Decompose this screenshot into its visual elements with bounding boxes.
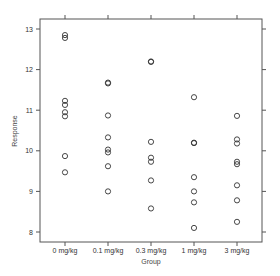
plot-frame: [40, 19, 262, 242]
data-point: [191, 95, 196, 100]
y-tick-label: 12: [25, 66, 33, 73]
data-point: [234, 183, 239, 188]
y-tick-label: 13: [25, 26, 33, 33]
x-tick-label: 0.3 mg/kg: [136, 247, 167, 255]
x-axis-title: Group: [141, 258, 161, 266]
data-points: [62, 32, 239, 230]
data-point: [191, 189, 196, 194]
data-point: [105, 135, 110, 140]
x-tick-label: 0 mg/kg: [53, 247, 78, 255]
data-point: [148, 139, 153, 144]
y-axis: 8910111213: [25, 26, 40, 236]
scatter-chart: 8910111213 0 mg/kg0.1 mg/kg0.3 mg/kg1 mg…: [0, 0, 280, 276]
data-point: [148, 178, 153, 183]
data-point: [234, 113, 239, 118]
data-point: [191, 225, 196, 230]
data-point: [191, 175, 196, 180]
data-point: [234, 219, 239, 224]
data-point: [62, 153, 67, 158]
x-axis: 0 mg/kg0.1 mg/kg0.3 mg/kg1 mg/kg3 mg/kg: [53, 242, 250, 255]
y-tick-label: 9: [29, 188, 33, 195]
right-ticks: [262, 29, 266, 232]
top-ticks: [65, 15, 237, 19]
y-tick-label: 8: [29, 229, 33, 236]
data-point: [191, 200, 196, 205]
x-tick-label: 0.1 mg/kg: [93, 247, 124, 255]
data-point: [105, 189, 110, 194]
data-point: [148, 206, 153, 211]
y-axis-title: Response: [11, 115, 19, 147]
data-point: [105, 164, 110, 169]
data-point: [105, 113, 110, 118]
x-tick-label: 1 mg/kg: [182, 247, 207, 255]
x-tick-label: 3 mg/kg: [225, 247, 250, 255]
data-point: [234, 198, 239, 203]
y-tick-label: 10: [25, 147, 33, 154]
y-tick-label: 11: [26, 107, 33, 114]
data-point: [62, 170, 67, 175]
